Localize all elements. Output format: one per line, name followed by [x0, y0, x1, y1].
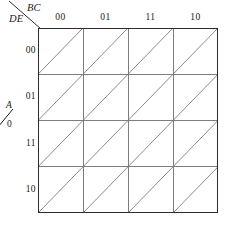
kmap-grid	[38, 28, 218, 213]
row-header-1: 01	[10, 91, 36, 101]
kmap-cell-r0-c2[interactable]	[128, 28, 173, 74]
row-variables-label: DE	[9, 13, 23, 24]
column-header-3: 10	[173, 12, 218, 22]
kmap-cell-r0-c3[interactable]	[173, 28, 218, 74]
column-header-0: 00	[38, 12, 83, 22]
kmap-cell-r2-c2[interactable]	[128, 121, 173, 167]
column-header-2: 11	[128, 12, 173, 22]
column-header-1: 01	[83, 12, 128, 22]
kmap-cell-r1-c0[interactable]	[38, 74, 83, 120]
kmap-cell-r3-c3[interactable]	[173, 167, 218, 213]
row-header-3: 10	[10, 184, 36, 194]
kmap-cell-r3-c2[interactable]	[128, 167, 173, 213]
kmap-cell-r2-c3[interactable]	[173, 121, 218, 167]
row-header-0: 00	[10, 45, 36, 55]
group-label: A 0	[0, 100, 18, 134]
kmap-cell-r1-c3[interactable]	[173, 74, 218, 120]
row-header-2: 11	[10, 138, 36, 148]
kmap-cell-r2-c0[interactable]	[38, 121, 83, 167]
kmap-cell-r2-c1[interactable]	[83, 121, 128, 167]
kmap-cell-r3-c0[interactable]	[38, 167, 83, 213]
kmap-grid-svg	[38, 28, 218, 213]
kmap-cell-r1-c1[interactable]	[83, 74, 128, 120]
kmap-cell-r0-c1[interactable]	[83, 28, 128, 74]
kmap-cell-r3-c1[interactable]	[83, 167, 128, 213]
corner-header: BC DE	[8, 0, 42, 30]
karnaugh-map-diagram: BC DE A 0 00 01 11 10 00 01 11 10	[0, 0, 227, 227]
kmap-cell-r0-c0[interactable]	[38, 28, 83, 74]
group-value-label: 0	[7, 119, 12, 129]
kmap-cell-r1-c2[interactable]	[128, 74, 173, 120]
